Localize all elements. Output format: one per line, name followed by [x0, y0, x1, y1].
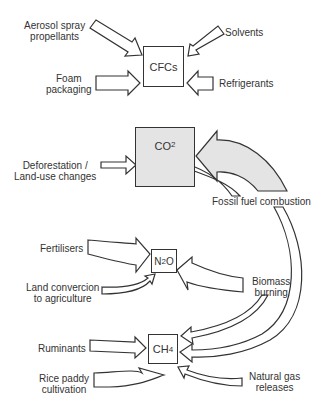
box-ch4: CH4 — [148, 334, 178, 364]
label-solvents: Solvents — [225, 27, 263, 38]
label-deforestation-line1: Deforestation / — [14, 160, 96, 171]
box-n2o: N2O — [151, 249, 177, 273]
label-aerosol-line2: propellants — [24, 31, 85, 42]
arrow-natural-gas — [178, 366, 242, 386]
label-biomass: Biomass burning — [252, 276, 290, 298]
arrow-biomass-to-ch4 — [181, 295, 268, 344]
label-rice-paddy: Rice paddy cultivation — [39, 373, 89, 395]
arrow-fertilisers — [88, 238, 150, 272]
label-foam-line1: Foam — [46, 73, 92, 84]
label-gas-line2: releases — [249, 382, 300, 393]
label-natural-gas: Natural gas releases — [249, 371, 300, 393]
arrow-land-conversion — [102, 274, 155, 294]
arrow-refrigerants — [187, 71, 213, 95]
box-cfcs: CFCs — [143, 46, 184, 87]
label-biomass-line2: burning — [252, 287, 290, 298]
label-deforestation-line2: Land-use changes — [14, 171, 96, 182]
label-foam-line2: packaging — [46, 84, 92, 95]
ch4-formula: CH — [153, 343, 169, 355]
co2-formula: CO — [155, 140, 172, 152]
label-land-line2: to agriculture — [26, 293, 99, 304]
ch4-subscript: 4 — [169, 345, 173, 354]
label-foam: Foam packaging — [46, 73, 92, 95]
label-biomass-line1: Biomass — [252, 276, 290, 287]
arrow-ruminants — [90, 337, 146, 358]
arrow-deforestation — [101, 156, 136, 174]
label-rice-line1: Rice paddy — [39, 373, 89, 384]
arrow-fossil-to-co2 — [196, 131, 287, 191]
co2-subscript: 2 — [171, 140, 175, 149]
label-rice-line2: cultivation — [39, 384, 89, 395]
arrow-rice-paddy — [94, 368, 164, 387]
label-gas-line1: Natural gas — [249, 371, 300, 382]
label-land-line1: Land convercion — [26, 282, 99, 293]
label-fertilisers: Fertilisers — [40, 243, 83, 254]
arrow-biomass-to-n2o — [177, 257, 243, 292]
label-aerosol: Aerosol spray propellants — [24, 20, 85, 42]
label-deforestation: Deforestation / Land-use changes — [14, 160, 96, 182]
box-co2: CO2 — [135, 127, 195, 187]
label-aerosol-line1: Aerosol spray — [24, 20, 85, 31]
label-refrigerants: Refrigerants — [219, 78, 273, 89]
arrow-aerosol — [90, 20, 142, 56]
label-ruminants: Ruminants — [38, 343, 86, 354]
n2o-o: O — [166, 256, 174, 267]
label-land-conversion: Land convercion to agriculture — [26, 282, 99, 304]
n2o-n: N — [154, 256, 161, 267]
arrow-foam — [96, 71, 140, 95]
label-fossil-fuel: Fossil fuel combustion — [212, 196, 311, 207]
arrow-solvents — [188, 26, 224, 56]
